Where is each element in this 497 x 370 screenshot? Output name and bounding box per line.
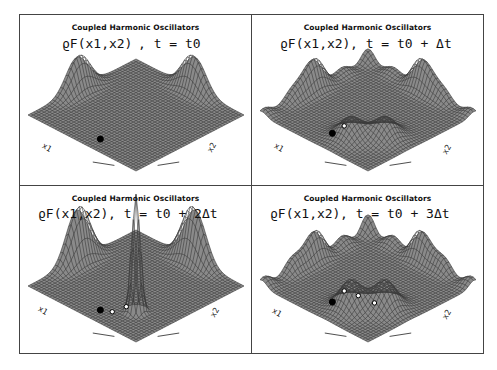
density-formula: ϱF(x1,x2) bbox=[270, 206, 340, 221]
figure-frame: Coupled Harmonic Oscillators ϱF(x1,x2) ,… bbox=[19, 14, 484, 354]
density-formula: ϱF(x1,x2) bbox=[62, 36, 132, 51]
time-formula: , t = t0 bbox=[138, 36, 201, 51]
axis-arrow-x2 bbox=[158, 333, 180, 336]
panel-t0-plus-3dt: Coupled Harmonic Oscillators ϱF(x1,x2) ,… bbox=[252, 186, 483, 356]
trajectory-marker bbox=[329, 299, 335, 305]
panel-title: Coupled Harmonic Oscillators bbox=[20, 23, 251, 32]
trajectory-marker bbox=[356, 293, 360, 297]
surface-plot bbox=[20, 15, 251, 185]
axis-arrow-x1 bbox=[325, 162, 347, 165]
trajectory-marker bbox=[124, 304, 128, 308]
axis-arrow-x1 bbox=[93, 162, 115, 165]
time-formula: , t = t0 + Δt bbox=[350, 36, 452, 51]
axis-arrow-x2 bbox=[390, 162, 412, 165]
time-formula: , t = t0 + 3Δt bbox=[340, 206, 450, 221]
trajectory-marker bbox=[372, 301, 376, 305]
trajectory-marker bbox=[342, 289, 346, 293]
axis-arrow-x1 bbox=[93, 333, 115, 336]
panel-t0: Coupled Harmonic Oscillators ϱF(x1,x2) ,… bbox=[20, 15, 251, 185]
panel-title: Coupled Harmonic Oscillators bbox=[252, 194, 483, 203]
density-formula: ϱF(x1,x2) bbox=[38, 206, 108, 221]
axis-arrow-x1 bbox=[325, 333, 347, 336]
panel-t0-plus-2dt: Coupled Harmonic Oscillators ϱF(x1,x2) ,… bbox=[20, 186, 251, 356]
trajectory-marker bbox=[342, 124, 346, 128]
panel-title: Coupled Harmonic Oscillators bbox=[252, 23, 483, 32]
trajectory-marker bbox=[110, 310, 114, 314]
trajectory-marker bbox=[329, 130, 335, 136]
axis-arrow-x2 bbox=[158, 162, 180, 165]
time-formula: , t = t0 + 2Δt bbox=[108, 206, 218, 221]
axis-arrow-x2 bbox=[390, 333, 412, 336]
trajectory-marker bbox=[97, 307, 103, 313]
surface-fill bbox=[260, 215, 476, 342]
panel-t0-plus-dt: Coupled Harmonic Oscillators ϱF(x1,x2) ,… bbox=[252, 15, 483, 185]
panel-title: Coupled Harmonic Oscillators bbox=[20, 194, 251, 203]
trajectory-marker bbox=[97, 136, 103, 142]
density-formula: ϱF(x1,x2) bbox=[280, 36, 350, 51]
